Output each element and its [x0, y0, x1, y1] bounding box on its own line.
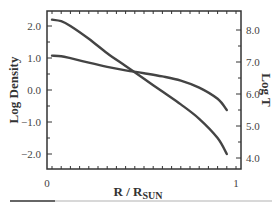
x-axis-title: R / RSUN: [114, 184, 164, 201]
plot-frame: [47, 11, 241, 169]
chart: 2.01.00.0−1.0−2.0 8.07.06.05.04.0 0 1 Lo…: [0, 0, 278, 208]
x-tick-label-0: 0: [44, 177, 50, 189]
y2-tick-label: 8.0: [246, 24, 260, 36]
y-tick-label: 2.0: [27, 20, 41, 32]
density-curve: [52, 20, 227, 154]
progress-bar: [10, 200, 272, 202]
y2-tick-label: 7.0: [246, 56, 260, 68]
y2-tick-label: 6.0: [246, 88, 260, 100]
progress-fill: [10, 200, 55, 202]
temperature-curve: [52, 56, 227, 110]
y-tick-label: 1.0: [27, 52, 41, 64]
y-tick-label: −2.0: [21, 148, 41, 160]
y2-tick-label: 5.0: [246, 120, 260, 132]
y2-tick-label: 4.0: [246, 152, 260, 164]
x-tick-label-1: 1: [233, 177, 239, 189]
axis-ticks: [47, 11, 241, 169]
series-lines: [52, 20, 227, 154]
y-tick-label: −1.0: [21, 116, 41, 128]
y-tick-label: 0.0: [27, 84, 41, 96]
y-axis-tick-labels: 2.01.00.0−1.0−2.0: [21, 20, 41, 160]
y2-axis-title: Log T: [259, 73, 274, 107]
y-axis-title: Log Density: [6, 56, 21, 123]
y2-axis-tick-labels: 8.07.06.05.04.0: [246, 24, 260, 164]
